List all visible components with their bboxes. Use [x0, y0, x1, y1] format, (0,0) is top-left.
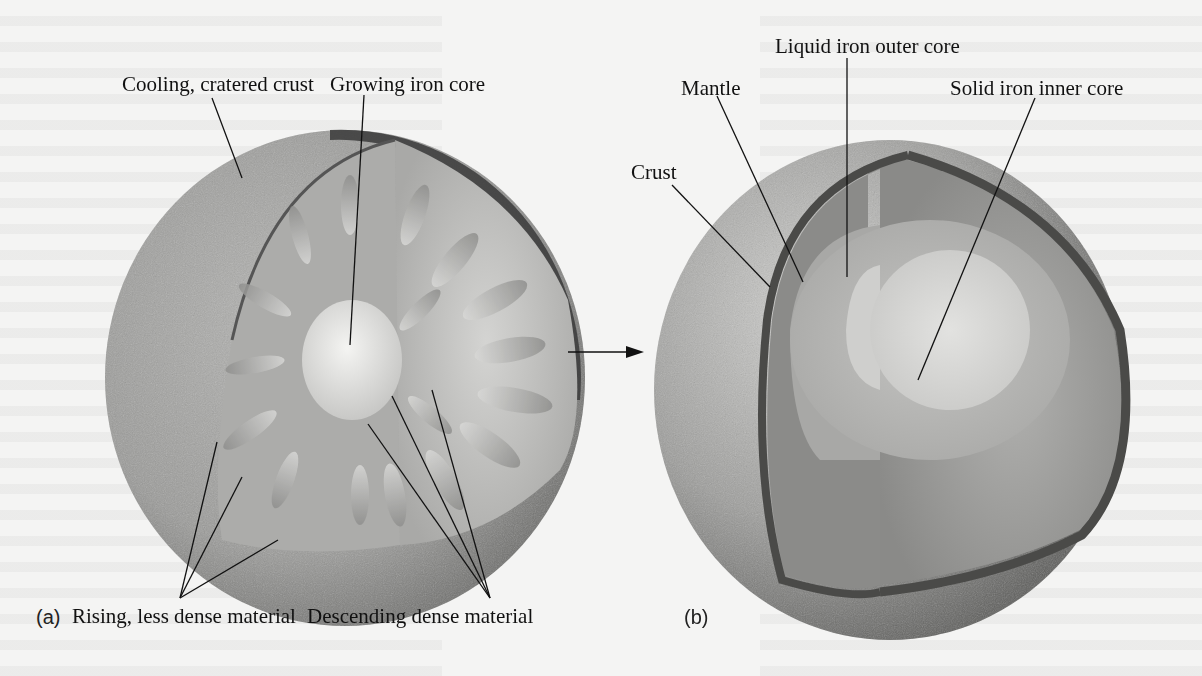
- panel-label-b: (b): [684, 606, 708, 629]
- label-crust: Crust: [631, 162, 677, 183]
- label-liquid-outer-core: Liquid iron outer core: [775, 36, 960, 57]
- early-earth-sphere: [105, 95, 585, 626]
- label-growing-core: Growing iron core: [330, 74, 485, 95]
- figure-graphic: [0, 0, 1202, 676]
- label-solid-inner-core: Solid iron inner core: [950, 78, 1123, 99]
- label-mantle: Mantle: [681, 78, 740, 99]
- label-descending-material: Descending dense material: [307, 606, 533, 627]
- label-rising-material: Rising, less dense material: [72, 606, 296, 627]
- panel-label-a: (a): [36, 606, 60, 629]
- label-cooling-crust: Cooling, cratered crust: [122, 74, 314, 95]
- modern-earth-sphere: [654, 58, 1126, 640]
